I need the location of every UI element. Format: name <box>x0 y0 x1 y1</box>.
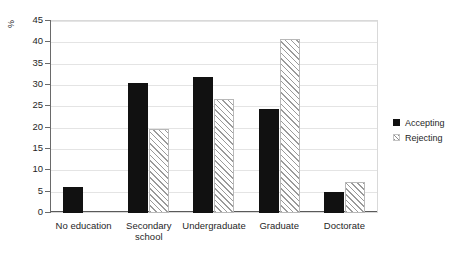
y-tick-label: 5 <box>19 186 43 196</box>
bar-accepting-undergraduate <box>193 77 213 213</box>
bar-group <box>181 21 246 213</box>
legend-label-rejecting: Rejecting <box>405 133 443 143</box>
y-tick-label: 25 <box>19 100 43 110</box>
bar-group <box>51 21 116 213</box>
legend-item-rejecting: Rejecting <box>393 131 445 144</box>
y-tick-mark <box>45 127 50 128</box>
bar-rejecting-graduate <box>280 39 300 213</box>
y-tick-mark <box>45 148 50 149</box>
legend-item-accepting: Accepting <box>393 116 445 129</box>
y-tick-label: 20 <box>19 122 43 132</box>
y-tick-mark <box>45 20 50 21</box>
legend-swatch-solid-icon <box>393 119 400 126</box>
bars-layer <box>51 21 377 213</box>
y-tick-mark <box>45 84 50 85</box>
y-tick-label: 35 <box>19 58 43 68</box>
bar-accepting-secondary-school <box>128 83 148 213</box>
bar-group <box>247 21 312 213</box>
y-tick-mark <box>45 41 50 42</box>
y-tick-mark <box>45 105 50 106</box>
bar-accepting-no-education <box>63 187 83 214</box>
x-tick-label-doctorate: Doctorate <box>299 220 389 231</box>
bar-chart: % 051015202530354045 No educationSeconda… <box>0 0 467 256</box>
y-tick-label: 45 <box>19 15 43 25</box>
y-tick-mark <box>45 169 50 170</box>
y-tick-label: 30 <box>19 79 43 89</box>
y-tick-label: 10 <box>19 164 43 174</box>
legend: Accepting Rejecting <box>393 116 445 146</box>
y-tick-mark <box>45 212 50 213</box>
y-tick-label: 0 <box>19 207 43 217</box>
legend-swatch-hatched-icon <box>393 134 400 141</box>
y-axis-title: % <box>6 20 16 28</box>
y-tick-mark <box>45 191 50 192</box>
bar-accepting-doctorate <box>324 192 344 213</box>
bar-rejecting-secondary-school <box>149 129 169 213</box>
bar-group <box>312 21 377 213</box>
y-tick-label: 15 <box>19 143 43 153</box>
legend-label-accepting: Accepting <box>405 118 445 128</box>
bar-rejecting-undergraduate <box>214 99 234 213</box>
bar-rejecting-doctorate <box>345 182 365 213</box>
y-tick-label: 40 <box>19 36 43 46</box>
bar-accepting-graduate <box>259 109 279 214</box>
y-tick-mark <box>45 63 50 64</box>
bar-group <box>116 21 181 213</box>
